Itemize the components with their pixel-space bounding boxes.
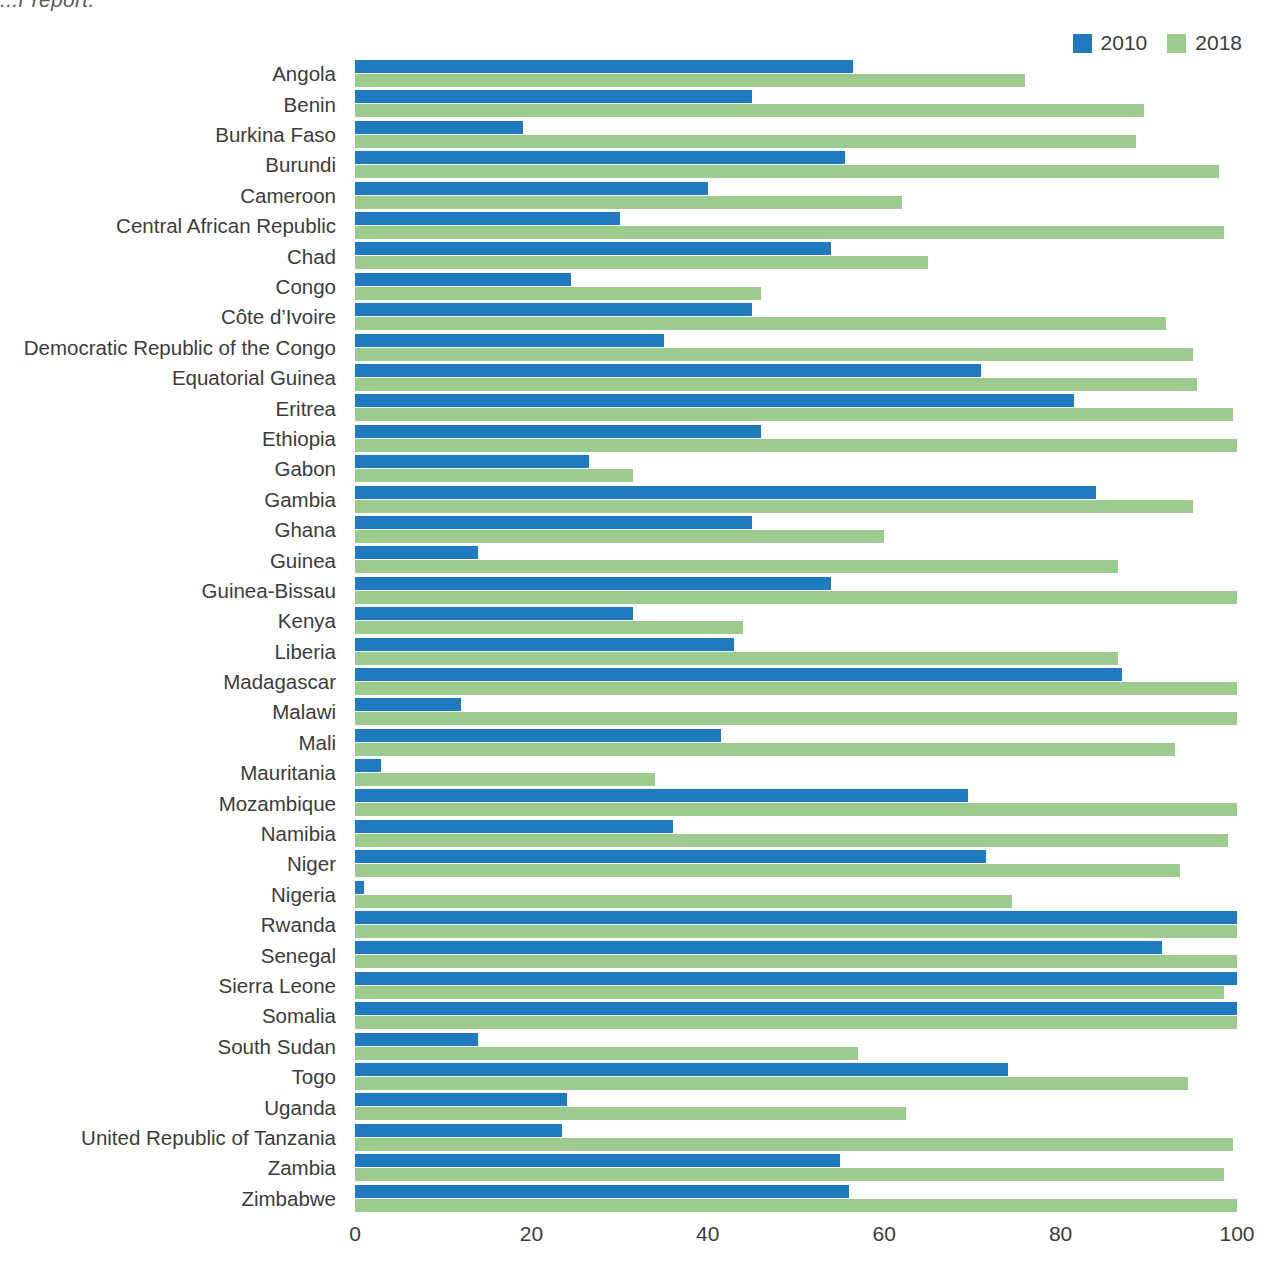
x-tick-label: 60 (873, 1222, 896, 1246)
category-label: Equatorial Guinea (172, 368, 336, 389)
bar-2010 (355, 911, 1237, 924)
category-label: Burundi (265, 155, 336, 176)
chart-row: Togo (0, 1063, 1280, 1093)
category-label: Eritrea (276, 399, 336, 420)
chart-row: Mauritania (0, 759, 1280, 789)
legend-label-2018: 2018 (1195, 31, 1242, 55)
bar-2018 (355, 955, 1237, 968)
chart-row: Chad (0, 242, 1280, 272)
bar-2010 (355, 789, 968, 802)
chart-row: Ethiopia (0, 425, 1280, 455)
bar-2018 (355, 317, 1166, 330)
chart-row: Benin (0, 90, 1280, 120)
bar-2018 (355, 530, 884, 543)
chart-row: Equatorial Guinea (0, 364, 1280, 394)
chart-row: Zimbabwe (0, 1185, 1280, 1215)
chart-row: Central African Republic (0, 212, 1280, 242)
bar-2010 (355, 455, 589, 468)
plot-area: AngolaBeninBurkina FasoBurundiCameroonCe… (0, 60, 1280, 1215)
legend-item-2018[interactable]: 2018 (1167, 31, 1242, 55)
chart-row: United Republic of Tanzania (0, 1124, 1280, 1154)
chart-row: Malawi (0, 698, 1280, 728)
chart-row: Niger (0, 850, 1280, 880)
category-label: Namibia (261, 824, 336, 845)
chart-row: Sierra Leone (0, 972, 1280, 1002)
category-label: Côte d’Ivoire (221, 307, 336, 328)
category-label: Sierra Leone (219, 976, 336, 997)
x-tick-label: 20 (520, 1222, 543, 1246)
chart-row: Burkina Faso (0, 121, 1280, 151)
category-label: Burkina Faso (215, 125, 336, 146)
bar-2010 (355, 121, 523, 134)
bar-2010 (355, 972, 1237, 985)
category-label: Ghana (274, 520, 336, 541)
x-tick-label: 0 (349, 1222, 361, 1246)
category-label: Mauritania (240, 763, 336, 784)
bar-2010 (355, 60, 853, 73)
bar-2018 (355, 287, 761, 300)
bar-2018 (355, 74, 1025, 87)
bar-2018 (355, 682, 1237, 695)
x-tick-label: 100 (1219, 1222, 1254, 1246)
category-label: Zambia (268, 1158, 336, 1179)
category-label: Rwanda (261, 915, 336, 936)
bar-2010 (355, 273, 571, 286)
chart-legend: 20102018 (1073, 31, 1242, 55)
category-label: Somalia (262, 1006, 336, 1027)
legend-label-2010: 2010 (1101, 31, 1148, 55)
bar-2010 (355, 1124, 562, 1137)
bar-2010 (355, 516, 752, 529)
category-label: Chad (287, 247, 336, 268)
bar-2018 (355, 135, 1136, 148)
bar-2018 (355, 925, 1237, 938)
category-label: Gabon (274, 459, 336, 480)
category-label: Benin (284, 95, 336, 116)
chart-row: Congo (0, 273, 1280, 303)
bar-2010 (355, 182, 708, 195)
bar-2018 (355, 196, 902, 209)
bar-2018 (355, 652, 1118, 665)
partial-title-text: ...r report. (0, 0, 95, 12)
bar-2010 (355, 394, 1074, 407)
category-label: United Republic of Tanzania (81, 1128, 336, 1149)
bar-2018 (355, 895, 1012, 908)
category-label: Democratic Republic of the Congo (24, 338, 336, 359)
x-tick-label: 80 (1049, 1222, 1072, 1246)
category-label: Mozambique (219, 794, 336, 815)
bar-2018 (355, 712, 1237, 725)
bar-2018 (355, 1138, 1233, 1151)
bar-2018 (355, 591, 1237, 604)
chart-row: South Sudan (0, 1033, 1280, 1063)
bar-2010 (355, 820, 673, 833)
bar-2018 (355, 1047, 858, 1060)
bar-2018 (355, 408, 1233, 421)
category-label: Central African Republic (116, 216, 336, 237)
legend-item-2010[interactable]: 2010 (1073, 31, 1148, 55)
bar-2010 (355, 151, 845, 164)
bar-chart: ...r report. 20102018 AngolaBeninBurkina… (0, 0, 1280, 1264)
bar-2010 (355, 668, 1122, 681)
bar-2018 (355, 226, 1224, 239)
category-label: Nigeria (271, 885, 336, 906)
category-label: Kenya (278, 611, 336, 632)
bar-2010 (355, 577, 831, 590)
category-label: Uganda (264, 1098, 336, 1119)
bar-2018 (355, 1199, 1237, 1212)
category-label: Guinea (270, 551, 336, 572)
category-label: Gambia (264, 490, 336, 511)
bar-2010 (355, 1063, 1008, 1076)
bar-2018 (355, 256, 928, 269)
bar-2010 (355, 1002, 1237, 1015)
chart-row: Rwanda (0, 911, 1280, 941)
legend-swatch-2018 (1167, 34, 1186, 53)
bar-2010 (355, 303, 752, 316)
bar-2018 (355, 743, 1175, 756)
chart-row: Somalia (0, 1002, 1280, 1032)
bar-2018 (355, 104, 1144, 117)
bar-2010 (355, 881, 364, 894)
bar-2018 (355, 348, 1193, 361)
chart-row: Kenya (0, 607, 1280, 637)
bar-2010 (355, 638, 734, 651)
chart-row: Mozambique (0, 789, 1280, 819)
category-label: South Sudan (217, 1037, 336, 1058)
